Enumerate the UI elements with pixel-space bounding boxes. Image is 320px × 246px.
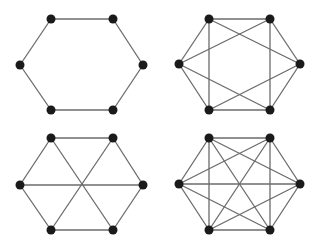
graph-edge [20,138,51,185]
graph-node [139,181,148,190]
graph-edge [179,19,270,64]
graph-c6-plus-chords [175,15,305,115]
graph-node [205,15,214,24]
graph-edge [209,64,300,110]
graph-edge [113,185,143,230]
graph-node [47,134,56,143]
graph-node [296,60,305,69]
graph-edge [179,184,270,230]
graph-edge [209,19,300,64]
graph-node [266,106,275,115]
graph-node [16,181,25,190]
graph-edge [113,65,143,110]
graph-edge [20,65,51,110]
graph-node [109,106,118,115]
graph-diagram [0,0,320,246]
graph-edge [179,138,270,184]
graph-node [47,106,56,115]
graph-node [16,61,25,70]
graph-node [175,60,184,69]
graph-c6-plus-diameters [16,134,148,235]
graph-node [139,61,148,70]
graph-node [109,226,118,235]
graph-edge [20,19,51,65]
graph-node [205,226,214,235]
graph-edge [113,19,143,65]
graph-edge [209,184,300,230]
graph-node [109,15,118,24]
graph-node [205,106,214,115]
graph-edge [113,138,143,185]
graph-node [175,180,184,189]
graph-complete-k6 [175,134,305,235]
graph-edge [20,185,51,230]
graph-edge [179,64,270,110]
graph-cycle-c6 [16,15,148,115]
graphs-container [16,15,305,235]
graph-node [47,15,56,24]
graph-node [109,134,118,143]
graph-node [266,134,275,143]
graph-node [205,134,214,143]
graph-node [47,226,56,235]
graph-node [266,15,275,24]
graph-node [266,226,275,235]
graph-node [296,180,305,189]
